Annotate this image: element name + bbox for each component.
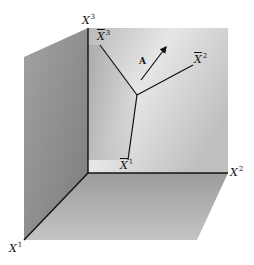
xbar2-base: X (194, 53, 202, 66)
x2-axis-label: X2 (230, 166, 243, 178)
coordinate-box-diagram (0, 0, 254, 265)
xbar3-label: X3 (97, 30, 110, 42)
x2-base: X (230, 166, 238, 179)
x1-base: X (9, 242, 17, 255)
xbar1-base: X (120, 159, 128, 172)
xbar1-label: X1 (120, 159, 133, 171)
x1-axis-label: X1 (9, 242, 22, 254)
xbar1-sup: 1 (129, 158, 133, 166)
x3-axis-label: X3 (82, 14, 95, 26)
x2-sup: 2 (239, 165, 243, 173)
xbar2-label: X2 (194, 53, 207, 65)
x1-sup: 1 (18, 241, 22, 249)
vector-a-text: A (139, 56, 146, 66)
x3-sup: 3 (91, 13, 95, 21)
xbar3-sup: 3 (106, 29, 110, 37)
xbar2-sup: 2 (203, 52, 207, 60)
xbar3-base: X (97, 30, 105, 43)
x3-base: X (82, 14, 90, 27)
vector-a-label: A (139, 57, 146, 66)
